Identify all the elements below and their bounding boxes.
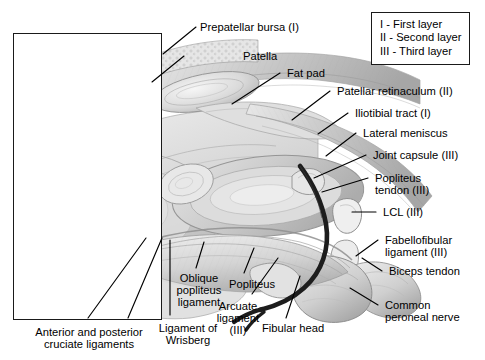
- label-popliteus-tendon-line1: Popliteus: [375, 172, 421, 184]
- label-lcl: LCL (III): [383, 206, 423, 218]
- label-fat-pad: Fat pad: [287, 67, 325, 79]
- label-wrisberg-line1: Ligament of: [151, 322, 225, 334]
- label-iliotibial-tract: Iliotibial tract (I): [355, 107, 431, 119]
- lcl-ligament: [333, 199, 362, 234]
- label-biceps-tendon: Biceps tendon: [389, 265, 460, 277]
- label-oblique-popliteus-line1: Oblique: [171, 272, 227, 284]
- legend-line-first-layer: I - First layer: [380, 18, 461, 31]
- label-popliteus: Popliteus: [229, 278, 275, 290]
- label-fabellofibular-line1: Fabellofibular: [385, 234, 452, 246]
- cutaway-inset-box: [13, 33, 162, 320]
- legend-line-third-layer: III - Third layer: [380, 45, 461, 58]
- label-cruciate-line1: Anterior and posterior: [28, 326, 150, 338]
- label-popliteus-tendon-line2: tendon (III): [375, 184, 429, 196]
- label-oblique-popliteus-line3: ligament: [171, 296, 227, 308]
- label-lateral-meniscus: Lateral meniscus: [363, 127, 448, 139]
- legend-line-second-layer: II - Second layer: [380, 31, 461, 44]
- label-wrisberg-line2: Wrisberg: [151, 334, 225, 346]
- label-common-peroneal-line2: peroneal nerve: [385, 311, 460, 323]
- label-prepatellar-bursa: Prepatellar bursa (I): [200, 21, 299, 33]
- layer-legend: I - First layer II - Second layer III - …: [371, 12, 470, 65]
- label-patellar-retinaculum: Patellar retinaculum (II): [337, 85, 453, 97]
- label-oblique-popliteus-line2: popliteus: [171, 284, 227, 296]
- label-fabellofibular-line2: ligament (III): [385, 246, 447, 258]
- label-fibular-head: Fibular head: [262, 322, 324, 334]
- label-patella: Patella: [243, 50, 277, 62]
- label-joint-capsule: Joint capsule (III): [373, 149, 458, 161]
- label-cruciate-line2: cruciate ligaments: [28, 338, 150, 350]
- label-common-peroneal-line1: Common: [385, 299, 430, 311]
- knee-anatomy-figure: I - First layer II - Second layer III - …: [0, 0, 485, 360]
